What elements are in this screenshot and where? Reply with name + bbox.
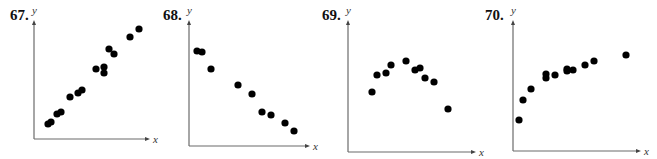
data-point [387,61,394,68]
data-point [110,50,117,57]
scatter-figure: 67.yx68.yx69.yx70.yx [0,0,657,159]
scatter-plot-68: 68.yx [163,4,318,152]
exercise-number: 67. [10,7,29,23]
x-axis-label: x [152,133,158,145]
exercise-number: 70. [485,7,504,23]
x-axis-label: x [478,146,484,158]
y-axis-arrow-icon [32,20,36,25]
data-point [622,51,629,58]
scatter-plot-69: 69.yx [322,4,484,158]
data-point [368,88,375,95]
data-point [100,69,107,76]
data-point [248,90,255,97]
data-point [527,85,534,92]
exercise-number: 69. [322,7,341,23]
data-point [581,61,588,68]
x-axis-arrow-icon [305,144,310,148]
data-point [57,108,64,115]
data-point [258,108,265,115]
data-point [267,111,274,118]
data-point [515,116,522,123]
data-point [281,119,288,126]
data-point [542,74,549,81]
x-axis-arrow-icon [636,149,641,153]
data-point [382,69,389,76]
data-point [92,65,99,72]
scatter-plot-67: 67.yx [10,4,158,145]
data-point [135,25,142,32]
data-point [207,65,214,72]
data-point [519,96,526,103]
data-point [402,57,409,64]
data-point [66,93,73,100]
data-point [290,127,297,134]
data-point [47,118,54,125]
scatter-plot-70: 70.yx [485,4,649,157]
data-point [373,71,380,78]
y-axis-arrow-icon [346,20,350,25]
data-point [416,64,423,71]
data-point [444,105,451,112]
data-point [563,67,570,74]
data-point [421,74,428,81]
data-point [551,71,558,78]
y-axis-label: y [31,4,37,16]
exercise-number: 68. [163,7,182,23]
data-point [569,66,576,73]
y-axis-arrow-icon [511,20,515,25]
data-point [590,57,597,64]
data-point [198,48,205,55]
x-axis-arrow-icon [145,137,150,141]
y-axis-label: y [186,4,192,16]
y-axis-label: y [510,4,516,16]
x-axis-arrow-icon [471,150,476,154]
data-point [78,86,85,93]
x-axis-label: x [312,140,318,152]
y-axis-label: y [345,4,351,16]
data-point [234,81,241,88]
y-axis-arrow-icon [187,20,191,25]
data-point [126,33,133,40]
data-point [430,78,437,85]
x-axis-label: x [643,145,649,157]
